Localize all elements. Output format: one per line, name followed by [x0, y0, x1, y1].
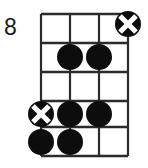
string-lines — [41, 14, 128, 156]
chord-diagram: 8 — [0, 0, 148, 168]
fretboard-grid — [0, 0, 148, 168]
root-marker-string4-fret1 — [115, 11, 141, 37]
finger-dot-string3-fret4 — [86, 101, 112, 127]
finger-dot-string2-fret5 — [57, 129, 83, 155]
finger-dot-string3-fret2 — [86, 44, 112, 70]
fret-lines — [41, 14, 128, 156]
finger-dot-string2-fret2 — [57, 44, 83, 70]
root-marker-string1-fret4 — [28, 101, 54, 127]
finger-markers — [28, 11, 141, 155]
finger-dot-string1-fret5 — [28, 129, 54, 155]
finger-dot-string2-fret4 — [57, 101, 83, 127]
